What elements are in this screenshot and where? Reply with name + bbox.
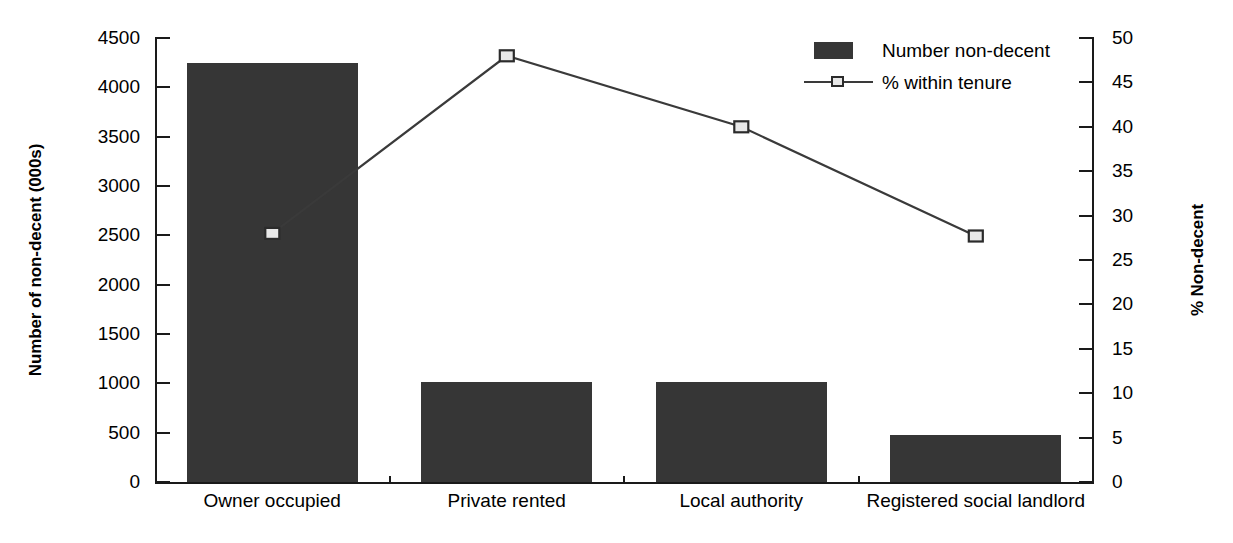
line-marker (500, 50, 514, 61)
legend-item-percent-within-tenure: % within tenure (804, 66, 1084, 98)
chart-container: Number of non-decent (000s) % Non-decent… (0, 0, 1233, 543)
line-marker (734, 121, 748, 132)
legend-label-percent-within-tenure: % within tenure (874, 73, 1012, 92)
line-marker (969, 231, 983, 242)
x-axis-category-label: Private rented (390, 490, 625, 512)
bar-swatch-icon (804, 37, 874, 63)
line-marker-icon (804, 69, 874, 95)
legend-label-number-non-decent: Number non-decent (874, 41, 1050, 60)
x-axis-category-label: Owner occupied (155, 490, 390, 512)
legend-item-number-non-decent: Number non-decent (804, 34, 1084, 66)
line-marker (265, 228, 279, 239)
x-axis-category-label: Local authority (624, 490, 859, 512)
chart-legend: Number non-decent % within tenure (804, 34, 1084, 98)
x-axis-category-label: Registered social landlord (859, 490, 1094, 512)
